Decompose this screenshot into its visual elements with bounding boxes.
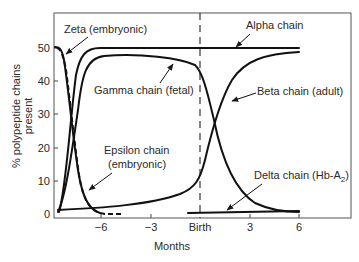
label-beta: Beta chain (adult) [257, 85, 343, 97]
y-axis-title: % polypeptide chains present [10, 64, 34, 168]
epsilon-leader-arrow [89, 173, 112, 190]
y-tick-0: 0 [44, 208, 50, 220]
gamma-chain-line [58, 55, 299, 212]
y-axis [54, 48, 58, 181]
y-tick-30: 30 [38, 108, 50, 120]
y-axis-title-line2: present [22, 98, 34, 135]
gamma-leader-arrow [160, 64, 173, 83]
y-tick-40: 40 [38, 75, 50, 87]
label-delta-end: ) [345, 169, 349, 181]
beta-leader-arrow [232, 93, 256, 101]
x-tick-minus3: −3 [145, 221, 158, 233]
y-tick-labels: 50 40 30 20 10 0 [38, 42, 50, 220]
y-tick-50: 50 [38, 42, 50, 54]
x-tick-minus6: −6 [95, 221, 108, 233]
label-epsilon-line2: (embryonic) [108, 158, 166, 170]
x-axis-title: Months [154, 240, 191, 252]
zeta-leader-arrow [66, 37, 88, 54]
x-tick-labels: −6 −3 Birth 3 6 [95, 221, 302, 233]
chart-svg: 50 40 30 20 10 0 −6 −3 Birth 3 6 Months … [0, 0, 359, 262]
label-gamma: Gamma chain (fetal) [94, 84, 194, 96]
x-tick-3: 3 [247, 221, 253, 233]
y-tick-20: 20 [38, 142, 50, 154]
delta-leader-arrow [227, 184, 262, 210]
label-delta-main: Delta chain (Hb-A [254, 169, 341, 181]
y-tick-10: 10 [38, 175, 50, 187]
y-axis-title-line1: % polypeptide chains [10, 64, 22, 168]
delta-chain-line [188, 211, 299, 213]
label-epsilon-line1: Epsilon chain [104, 144, 169, 156]
hemoglobin-chain-chart: 50 40 30 20 10 0 −6 −3 Birth 3 6 Months … [0, 0, 359, 262]
x-tick-6: 6 [296, 221, 302, 233]
label-alpha: Alpha chain [246, 19, 304, 31]
alpha-chain-line [59, 48, 299, 212]
label-delta: Delta chain (Hb-A2) [254, 169, 349, 184]
alpha-leader-arrow [236, 34, 250, 47]
x-tick-birth: Birth [189, 221, 212, 233]
plot-frame [54, 13, 351, 218]
label-zeta: Zeta (embryonic) [64, 23, 147, 35]
